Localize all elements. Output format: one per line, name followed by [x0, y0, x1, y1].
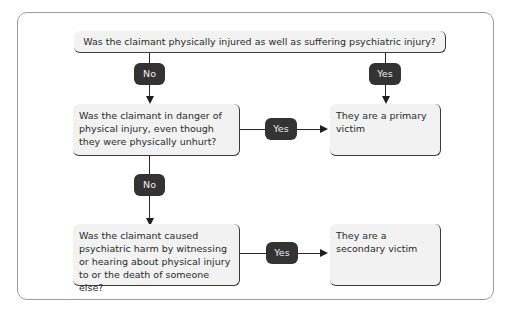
label-q3-yes: Yes — [266, 242, 298, 264]
question-physically-injured-text: Was the claimant physically injured as w… — [83, 36, 436, 47]
label-q1-yes: Yes — [369, 63, 401, 85]
question-danger-of-injury-text: Was the claimant in danger of physical i… — [79, 110, 222, 147]
label-q2-no: No — [134, 174, 165, 196]
arrow-down-icon — [382, 96, 390, 104]
arrow-right-icon — [320, 125, 328, 133]
question-witnessing-harm-text: Was the claimant caused psychiatric harm… — [79, 230, 230, 293]
arrow-right-icon — [320, 249, 328, 257]
result-primary-victim-text: They are a primary victim — [336, 110, 427, 134]
question-physically-injured: Was the claimant physically injured as w… — [74, 31, 446, 53]
question-danger-of-injury: Was the claimant in danger of physical i… — [73, 104, 240, 156]
label-q1-no: No — [134, 63, 165, 85]
result-primary-victim: They are a primary victim — [330, 104, 441, 156]
result-secondary-victim: They are a secondary victim — [330, 224, 441, 286]
label-q2-yes: Yes — [265, 118, 297, 140]
question-witnessing-harm: Was the claimant caused psychiatric harm… — [73, 224, 240, 286]
arrow-down-icon — [146, 96, 154, 104]
result-secondary-victim-text: They are a secondary victim — [336, 230, 417, 254]
